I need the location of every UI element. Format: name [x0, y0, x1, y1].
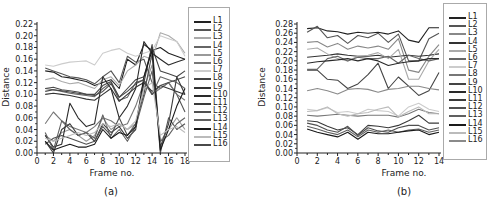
legend-swatch [194, 144, 211, 146]
legend-swatch [194, 62, 211, 64]
legend-swatch [194, 87, 211, 89]
svg-text:0.06: 0.06 [275, 121, 293, 130]
legend-swatch [449, 124, 466, 126]
svg-text:4: 4 [67, 157, 72, 166]
svg-text:2: 2 [51, 157, 56, 166]
svg-text:0.16: 0.16 [15, 55, 33, 64]
legend-swatch [449, 132, 466, 134]
svg-text:0.08: 0.08 [275, 112, 293, 121]
caption-a: (a) [91, 186, 131, 197]
svg-text:0: 0 [294, 157, 299, 166]
series-line-l5 [307, 48, 439, 79]
legend-swatch [194, 136, 211, 138]
legend-swatch [449, 25, 466, 27]
svg-text:6: 6 [355, 157, 360, 166]
svg-text:0.14: 0.14 [15, 67, 33, 76]
svg-text:0.22: 0.22 [15, 20, 33, 29]
svg-text:10: 10 [393, 157, 403, 166]
svg-text:8: 8 [100, 157, 105, 166]
svg-text:2: 2 [315, 157, 320, 166]
legend-swatch [194, 95, 211, 97]
legend-swatch [449, 107, 466, 109]
svg-text:0.18: 0.18 [275, 66, 293, 75]
svg-text:4: 4 [335, 157, 340, 166]
svg-text:0.26: 0.26 [275, 29, 293, 38]
svg-text:14: 14 [147, 157, 157, 166]
x-axis-label-a: Frame no. [72, 168, 152, 178]
svg-text:0: 0 [34, 157, 39, 166]
svg-text:0.12: 0.12 [15, 79, 33, 88]
svg-text:0.04: 0.04 [275, 131, 293, 140]
legend-swatch [449, 33, 466, 35]
caption-b: (b) [384, 186, 424, 197]
legend-swatch [449, 83, 466, 85]
svg-text:0.20: 0.20 [15, 32, 33, 41]
svg-text:0.00: 0.00 [15, 149, 33, 158]
svg-text:6: 6 [84, 157, 89, 166]
svg-text:0.14: 0.14 [275, 85, 293, 94]
svg-text:0.02: 0.02 [15, 137, 33, 146]
legend-label: L16 [213, 139, 228, 149]
legend-swatch [194, 78, 211, 80]
legend-b: L1L2L3L4L5L6L7L8L9L10L11L12L13L14L15L16 [443, 3, 487, 160]
svg-text:0.12: 0.12 [275, 94, 293, 103]
legend-a: L1L2L3L4L5L6L7L8L9L10L11L12L13L14L15L16 [188, 7, 230, 162]
legend-swatch [194, 46, 211, 48]
legend-swatch [449, 140, 466, 142]
legend-swatch [449, 17, 466, 19]
svg-text:0.08: 0.08 [15, 102, 33, 111]
svg-text:0.18: 0.18 [15, 43, 33, 52]
legend-swatch [449, 99, 466, 101]
legend-swatch [449, 50, 466, 52]
series-line-l13 [307, 126, 439, 137]
legend-swatch [194, 54, 211, 56]
legend-swatch [449, 91, 466, 93]
legend-swatch [194, 21, 211, 23]
svg-text:0.02: 0.02 [275, 140, 293, 149]
legend-swatch [194, 37, 211, 39]
legend-swatch [194, 29, 211, 31]
svg-text:8: 8 [376, 157, 381, 166]
chart-panel-b: 0.000.020.040.060.080.100.120.140.160.18… [245, 0, 487, 203]
svg-text:0.16: 0.16 [275, 75, 293, 84]
svg-text:0.10: 0.10 [275, 103, 293, 112]
y-axis-label-b: Distance [257, 57, 267, 117]
x-axis-label-b: Frame no. [364, 168, 444, 178]
svg-text:0.00: 0.00 [275, 149, 293, 158]
series-line-l6 [307, 55, 439, 69]
svg-text:0.10: 0.10 [15, 90, 33, 99]
legend-swatch [194, 128, 211, 130]
svg-text:16: 16 [163, 157, 173, 166]
series-line-l16 [307, 86, 439, 94]
svg-text:0.04: 0.04 [15, 126, 33, 135]
chart-panel-a: 0.000.020.040.060.080.100.120.140.160.18… [0, 0, 245, 203]
legend-swatch [194, 111, 211, 113]
y-axis-label-a: Distance [1, 57, 11, 117]
svg-text:0.24: 0.24 [275, 38, 293, 47]
svg-text:12: 12 [414, 157, 424, 166]
legend-swatch [449, 74, 466, 76]
svg-text:0.22: 0.22 [275, 48, 293, 57]
series-line-l3 [45, 33, 185, 89]
legend-swatch [194, 119, 211, 121]
svg-text:0.28: 0.28 [275, 20, 293, 29]
legend-swatch [449, 66, 466, 68]
legend-swatch [449, 42, 466, 44]
legend-swatch [194, 70, 211, 72]
series-line-l14 [307, 129, 439, 139]
svg-text:12: 12 [131, 157, 141, 166]
axes: 0.000.020.040.060.080.100.120.140.160.18… [15, 20, 190, 166]
svg-text:10: 10 [114, 157, 124, 166]
legend-swatch [449, 58, 466, 60]
legend-swatch [194, 103, 211, 105]
legend-swatch [449, 115, 466, 117]
svg-text:0.06: 0.06 [15, 114, 33, 123]
legend-label: L16 [468, 135, 483, 145]
svg-text:0.20: 0.20 [275, 57, 293, 66]
